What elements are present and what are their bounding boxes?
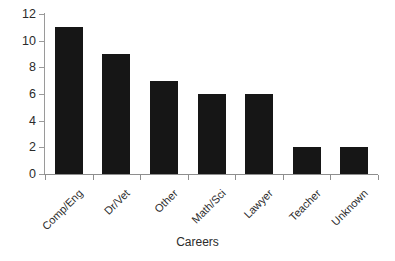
x-tick-mark: [283, 175, 284, 180]
x-tick-mark: [93, 175, 94, 180]
bar: [293, 147, 321, 174]
x-tick-mark: [235, 175, 236, 180]
y-tick-mark: [39, 147, 44, 148]
bar: [340, 147, 368, 174]
y-tick-label: 0: [6, 168, 36, 181]
bar: [102, 54, 130, 174]
y-tick-mark: [39, 174, 44, 175]
y-tick-mark: [39, 41, 44, 42]
y-tick-mark: [39, 94, 44, 95]
bar-chart: 024681012 Comp/EngDr/VetOtherMath/SciLaw…: [0, 0, 395, 261]
bar: [198, 94, 226, 174]
bar: [245, 94, 273, 174]
y-tick-mark: [39, 67, 44, 68]
y-tick-mark: [39, 121, 44, 122]
plot-area: [45, 14, 378, 174]
y-tick-label: 6: [6, 88, 36, 101]
x-axis-line: [44, 174, 378, 175]
x-tick-mark: [378, 175, 379, 180]
y-tick-label: 4: [6, 115, 36, 128]
y-tick-label: 10: [6, 35, 36, 48]
y-tick-label: 12: [6, 8, 36, 21]
y-tick-mark: [39, 14, 44, 15]
bar: [55, 27, 83, 174]
y-tick-label: 2: [6, 141, 36, 154]
bar: [150, 81, 178, 174]
x-tick-mark: [45, 175, 46, 180]
x-tick-mark: [140, 175, 141, 180]
x-tick-mark: [330, 175, 331, 180]
x-tick-mark: [188, 175, 189, 180]
y-tick-label: 8: [6, 61, 36, 74]
x-axis-title: Careers: [0, 236, 395, 248]
